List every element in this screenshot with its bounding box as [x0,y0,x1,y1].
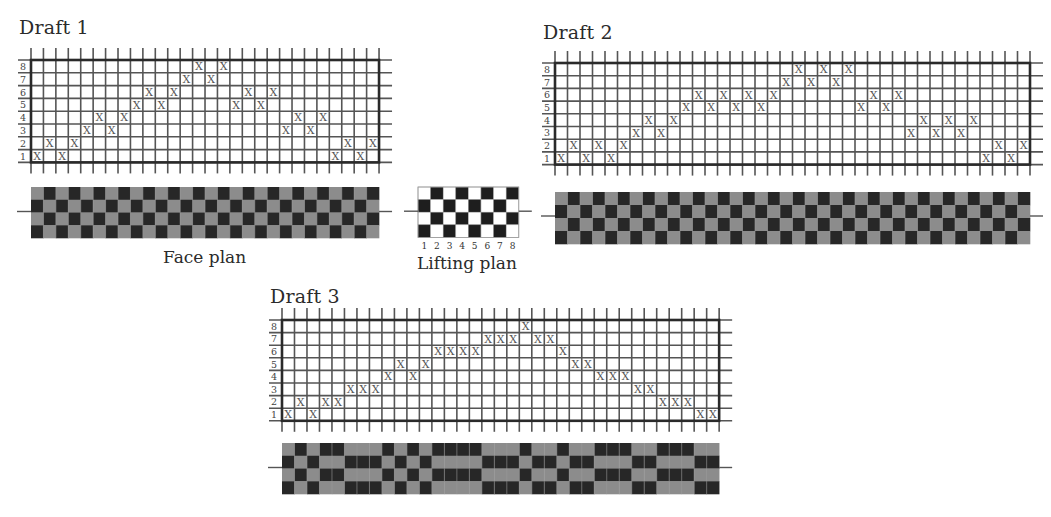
face-plan-cell [294,481,307,494]
threading-mark: X [684,396,692,409]
face-plan-cell [93,225,106,238]
face-plan-cell [31,200,44,213]
lifting-plan-column-number: 1 [421,241,427,251]
threading-mark: X [384,370,392,383]
face-plan-cell [694,456,707,469]
threading-mark: X [309,408,317,421]
face-plan-cell [155,187,168,200]
face-plan-cell [267,225,280,238]
face-plan-cell [580,192,593,205]
face-plan-cell [367,187,380,200]
threading-mark: X [409,370,417,383]
face-plan-cell [668,192,681,205]
shaft-label: 8 [544,64,550,75]
face-plan-cell [880,192,893,205]
face-plan-cell [619,456,632,469]
face-plan-cell [618,192,631,205]
face-plan-cell [56,187,69,200]
face-plan-cell [217,213,230,226]
face-plan-cell [394,481,407,494]
face-plan-cell [205,187,218,200]
face-plan-cell [432,481,445,494]
face-plan-cell [918,192,931,205]
face-plan-cell [143,213,156,226]
threading-mark: X [620,139,628,152]
face-plan-cell [255,213,268,226]
face-plan-cell [118,213,131,226]
face-plan-cell [507,456,520,469]
threading-mark: X [108,124,116,137]
face-plan-cell [394,469,407,482]
threading-mark: X [807,76,815,89]
threading-mark: X [83,124,91,137]
face-plan-cell [180,225,193,238]
face-plan-cell [643,192,656,205]
face-plan-cell [905,231,918,244]
face-plan-cell [793,192,806,205]
face-plan-cell [304,200,317,213]
lifting-plan-cell [456,187,469,200]
threading-mark: X [832,76,840,89]
face-plan-cell [106,187,119,200]
face-plan-cell [644,456,657,469]
face-plan-cell [632,469,645,482]
threading-mark: X [58,150,66,163]
face-plan-cell [818,192,831,205]
face-plan-cell [607,469,620,482]
lifting-plan-cell [443,187,456,200]
face-plan-cell [655,231,668,244]
face-plan-cell [544,481,557,494]
threading-mark: X [158,99,166,112]
face-plan-cell [619,481,632,494]
face-plan-cell [143,225,156,238]
face-plan-cell [292,213,305,226]
threading-mark: X [484,333,492,346]
face-plan-cell [255,225,268,238]
face-plan-cell [593,205,606,218]
face-plan-cell [993,192,1006,205]
threading-mark: X [497,333,505,346]
face-plan-cell [632,443,645,456]
threading-mark: X [672,396,680,409]
face-plan-cell [582,481,595,494]
threading-mark: X [472,345,480,358]
face-plan-cell [367,213,380,226]
face-plan-cell [444,443,457,456]
face-plan-cell [93,213,106,226]
face-plan-cell [868,192,881,205]
threading-mark: X [945,114,953,127]
face-plan-cell [419,456,432,469]
face-plan-cell [793,218,806,231]
face-plan-cell [180,200,193,213]
threading-mark: X [657,127,665,140]
threading-mark: X [845,63,853,76]
face-plan-cell [31,187,44,200]
face-plan-cell [843,218,856,231]
face-plan-cell [594,469,607,482]
face-plan-cell [168,225,181,238]
lifting-plan-column-number: 6 [484,241,490,251]
face-plan-cell [143,200,156,213]
face-plan-cell [242,225,255,238]
face-plan-cell [980,192,993,205]
shaft-label: 4 [544,115,550,126]
face-plan-cell [918,205,931,218]
face-plan-cell [569,469,582,482]
face-plan-cell [280,200,293,213]
face-plan-cell [743,192,756,205]
face-plan-cell [705,192,718,205]
face-plan-cell [532,443,545,456]
face-plan-cell [730,218,743,231]
face-plan-cell [669,481,682,494]
face-plan-cell [432,469,445,482]
lifting-plan-cell [506,187,519,200]
face-plan-cell [444,469,457,482]
shaft-label: 7 [271,333,277,344]
face-plan-cell [357,443,370,456]
face-plan-cell [193,187,206,200]
threading-mark: X [207,73,215,86]
face-plan-cell [544,469,557,482]
face-plan-cell [319,481,332,494]
face-plan-cell [419,481,432,494]
face-plan-cell [68,200,81,213]
